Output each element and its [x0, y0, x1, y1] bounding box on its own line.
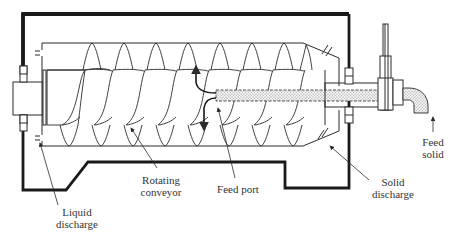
label-solid-discharge: Solid discharge	[366, 176, 420, 200]
housing-body	[23, 14, 129, 68]
label-liquid-discharge: Liquid discharge	[52, 206, 102, 230]
drive-pulley	[378, 24, 403, 110]
label-rotating-conveyor-line2: conveyor	[133, 186, 189, 198]
feed-tube	[216, 90, 380, 101]
left-seal	[13, 48, 43, 132]
housing-outline-correct	[23, 14, 349, 67]
housing-right-wall-real	[23, 14, 349, 190]
casing	[23, 14, 129, 68]
centrifuge-housing	[23, 14, 349, 67]
housing-top	[23, 14, 129, 68]
label-solid-discharge-line1: Solid	[366, 176, 420, 188]
housing-outline-thick	[23, 14, 129, 68]
label-liquid-discharge-line2: discharge	[52, 218, 102, 230]
housing-top-edge	[23, 14, 129, 66]
housing-shell	[23, 14, 349, 67]
label-rotating-conveyor-line1: Rotating	[133, 174, 189, 186]
label-solid-discharge-line2: discharge	[366, 188, 420, 200]
label-rotating-conveyor: Rotating conveyor	[133, 174, 189, 198]
label-feed-port: Feed port	[212, 183, 264, 195]
housing-visible	[23, 14, 349, 67]
housing-whole	[23, 14, 349, 67]
housing-outline-true	[23, 14, 349, 67]
thick-housing	[23, 14, 129, 68]
housing-group	[23, 14, 349, 67]
decanter-centrifuge-diagram	[0, 0, 455, 237]
centrifuge-casing	[23, 14, 130, 67]
label-liquid-discharge-line1: Liquid	[52, 206, 102, 218]
label-feed-port-line1: Feed port	[212, 183, 264, 195]
casing-line	[23, 14, 128, 68]
label-feed-solid-line2: solid	[415, 148, 451, 160]
housing-clean	[23, 14, 349, 67]
left-shaft	[43, 70, 46, 125]
housing-drawn	[23, 14, 349, 66]
housing-final	[23, 14, 349, 68]
housing-actual	[23, 14, 349, 67]
housing-path	[23, 14, 129, 67]
housing-outline	[23, 14, 129, 66]
casing-outline	[23, 14, 130, 67]
label-feed-solid-line1: Feed	[415, 136, 451, 148]
feed-inlet-pipe	[403, 88, 428, 113]
label-feed-solid: Feed solid	[415, 136, 451, 160]
housing-frame-outline	[23, 14, 349, 68]
housing	[23, 14, 129, 66]
housing-main	[23, 14, 349, 68]
housing-frame	[23, 14, 350, 66]
feed-port-flow-arrows	[196, 66, 216, 130]
housing-real	[23, 14, 350, 67]
bowl-housing	[23, 14, 349, 67]
housing-full	[23, 14, 129, 67]
